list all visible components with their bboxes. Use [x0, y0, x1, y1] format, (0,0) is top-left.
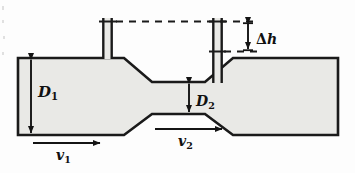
label-velocity-throat: v2 [178, 134, 193, 148]
label-diameter-throat: D2 [196, 94, 215, 108]
label-diameter-inlet-symbol: D [38, 83, 51, 101]
label-diameter-inlet: D1 [38, 85, 58, 100]
venturi-meter-figure: D1 D2 v1 v2 Δh [0, 0, 355, 173]
label-diameter-inlet-subscript: 1 [51, 90, 58, 102]
label-head-difference: Δh [256, 32, 277, 46]
head-difference-dimension-arrow [243, 23, 253, 50]
label-velocity-inlet-subscript: 1 [64, 154, 71, 165]
label-diameter-throat-symbol: D [196, 93, 208, 109]
pipe-body-group [18, 58, 338, 135]
label-head-difference-variable: h [267, 31, 277, 47]
label-diameter-throat-subscript: 2 [208, 100, 215, 111]
label-velocity-throat-subscript: 2 [186, 140, 193, 151]
label-velocity-inlet-symbol: v [56, 147, 64, 163]
label-velocity-throat-symbol: v [178, 133, 186, 149]
label-head-difference-delta: Δ [256, 31, 267, 47]
label-velocity-inlet: v1 [56, 148, 71, 162]
piezometer-tube-left-group [99, 18, 117, 59]
pipe-body-outline [18, 58, 338, 135]
